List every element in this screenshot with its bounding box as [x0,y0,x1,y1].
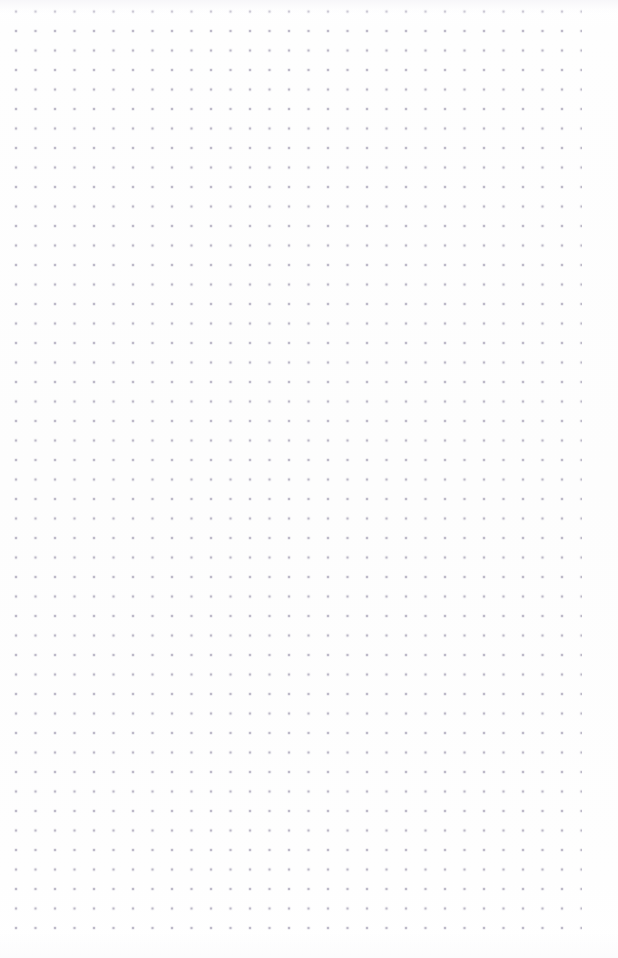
page-content-layer[interactable] [0,0,618,958]
page-written-content [0,0,1,1]
notebook-page [0,0,618,958]
